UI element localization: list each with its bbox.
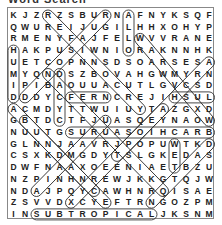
grid-cell[interactable]: U (192, 92, 203, 103)
grid-cell[interactable]: I (112, 209, 123, 220)
grid-cell[interactable]: Q (135, 115, 146, 126)
grid-cell[interactable]: K (158, 150, 169, 161)
grid-cell[interactable]: C (181, 80, 192, 91)
grid-cell[interactable]: A (100, 186, 111, 197)
grid-cell[interactable]: U (43, 209, 54, 220)
grid-cell[interactable]: C (112, 92, 123, 103)
grid-cell[interactable]: K (43, 150, 54, 161)
grid-cell[interactable]: S (192, 80, 203, 91)
grid-cell[interactable]: B (20, 115, 31, 126)
grid-cell[interactable]: D (20, 92, 31, 103)
grid-cell[interactable]: V (31, 197, 42, 208)
grid-cell[interactable]: K (158, 45, 169, 56)
grid-cell[interactable]: V (169, 80, 180, 91)
grid-cell[interactable]: F (112, 197, 123, 208)
grid-cell[interactable]: E (112, 33, 123, 44)
grid-cell[interactable]: A (158, 104, 169, 115)
grid-cell[interactable]: J (112, 139, 123, 150)
grid-cell[interactable]: N (181, 45, 192, 56)
grid-cell[interactable]: N (146, 197, 157, 208)
grid-cell[interactable]: D (8, 92, 19, 103)
grid-cell[interactable]: M (169, 69, 180, 80)
grid-cell[interactable]: A (123, 69, 134, 80)
grid-cell[interactable]: Y (77, 186, 88, 197)
grid-cell[interactable]: G (77, 150, 88, 161)
grid-cell[interactable]: N (204, 69, 215, 80)
grid-cell[interactable]: G (8, 115, 19, 126)
grid-cell[interactable]: B (181, 162, 192, 173)
grid-cell[interactable]: R (135, 197, 146, 208)
grid-cell[interactable]: G (158, 80, 169, 91)
grid-cell[interactable]: A (192, 186, 203, 197)
grid-cell[interactable]: F (204, 10, 215, 21)
grid-cell[interactable]: U (20, 127, 31, 138)
grid-cell[interactable]: Q (8, 22, 19, 33)
grid-cell[interactable]: F (77, 115, 88, 126)
grid-cell[interactable]: L (123, 33, 134, 44)
grid-cell[interactable]: O (100, 69, 111, 80)
grid-cell[interactable]: C (43, 57, 54, 68)
grid-cell[interactable]: R (100, 139, 111, 150)
grid-cell[interactable]: N (43, 162, 54, 173)
grid-cell[interactable]: N (54, 174, 65, 185)
grid-cell[interactable]: L (123, 22, 134, 33)
grid-cell[interactable]: D (20, 186, 31, 197)
grid-cell[interactable]: H (192, 45, 203, 56)
grid-cell[interactable]: Q (66, 186, 77, 197)
grid-cell[interactable]: U (100, 115, 111, 126)
grid-cell[interactable]: N (8, 127, 19, 138)
grid-cell[interactable]: M (66, 150, 77, 161)
grid-cell[interactable]: E (112, 162, 123, 173)
grid-cell[interactable]: D (43, 115, 54, 126)
grid-cell[interactable]: R (43, 22, 54, 33)
grid-cell[interactable]: P (100, 209, 111, 220)
grid-cell[interactable]: C (112, 80, 123, 91)
grid-cell[interactable]: C (89, 186, 100, 197)
grid-cell[interactable]: A (66, 139, 77, 150)
grid-cell[interactable]: N (100, 92, 111, 103)
grid-cell[interactable]: C (54, 115, 65, 126)
grid-cell[interactable]: R (192, 127, 203, 138)
grid-cell[interactable]: Y (54, 33, 65, 44)
grid-cell[interactable]: O (135, 139, 146, 150)
grid-cell[interactable]: G (146, 69, 157, 80)
grid-cell[interactable]: W (112, 186, 123, 197)
grid-cell[interactable]: N (146, 10, 157, 21)
grid-cell[interactable]: U (89, 22, 100, 33)
grid-cell[interactable]: F (100, 33, 111, 44)
grid-cell[interactable]: E (54, 22, 65, 33)
grid-cell[interactable]: H (169, 92, 180, 103)
grid-cell[interactable]: C (8, 150, 19, 161)
grid-cell[interactable]: S (181, 186, 192, 197)
grid-cell[interactable]: B (204, 127, 215, 138)
grid-cell[interactable]: O (89, 209, 100, 220)
grid-cell[interactable]: L (204, 92, 215, 103)
grid-cell[interactable]: E (20, 57, 31, 68)
grid-cell[interactable]: U (100, 127, 111, 138)
grid-cell[interactable]: C (20, 104, 31, 115)
grid-cell[interactable]: O (135, 57, 146, 68)
grid-cell[interactable]: A (77, 33, 88, 44)
grid-cell[interactable]: N (8, 174, 19, 185)
grid-cell[interactable]: S (181, 209, 192, 220)
grid-cell[interactable]: S (123, 127, 134, 138)
grid-cell[interactable]: Y (181, 69, 192, 80)
grid-cell[interactable]: C (54, 92, 65, 103)
grid-cell[interactable]: T (169, 162, 180, 173)
grid-cell[interactable]: J (20, 10, 31, 21)
grid-cell[interactable]: R (169, 33, 180, 44)
grid-cell[interactable]: E (181, 57, 192, 68)
grid-cell[interactable]: M (204, 209, 215, 220)
grid-cell[interactable]: F (31, 162, 42, 173)
grid-cell[interactable]: S (20, 197, 31, 208)
grid-cell[interactable]: B (43, 80, 54, 91)
grid-cell[interactable]: E (146, 115, 157, 126)
grid-cell[interactable]: O (169, 197, 180, 208)
grid-cell[interactable]: W (89, 45, 100, 56)
grid-cell[interactable]: A (123, 10, 134, 21)
grid-cell[interactable]: R (43, 10, 54, 21)
grid-cell[interactable]: O (66, 80, 77, 91)
grid-cell[interactable]: Y (20, 69, 31, 80)
grid-cell[interactable]: N (123, 162, 134, 173)
grid-cell[interactable]: Y (192, 22, 203, 33)
